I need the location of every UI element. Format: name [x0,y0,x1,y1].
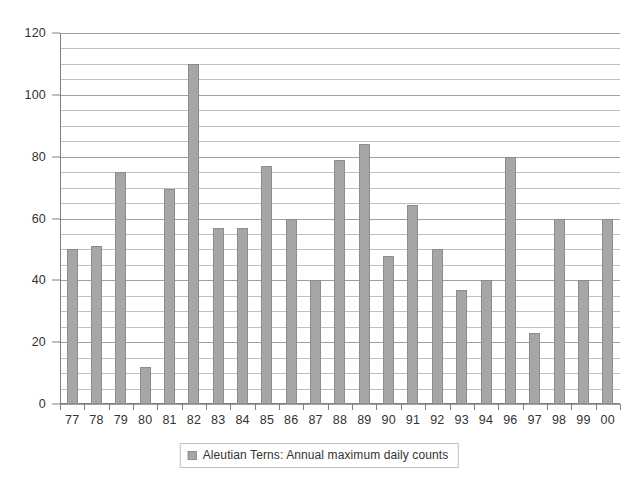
bar-slot [230,33,254,404]
bar-slot [255,33,279,404]
bar-series [60,33,620,404]
x-axis-tick-label: 91 [401,413,425,433]
bar-chart: 020406080100120 777879808182838485868788… [0,0,638,430]
x-axis-tick-label: 81 [157,413,181,433]
bar-slot [303,33,327,404]
y-axis-tick-label: 0 [39,397,46,411]
bar [407,205,418,404]
bar-slot [328,33,352,404]
x-axis-tick-label: 80 [133,413,157,433]
x-axis-tick [523,404,524,410]
x-axis-tick [474,404,475,410]
bar [456,290,467,404]
x-axis-tick-label: 87 [303,413,327,433]
bar-slot [133,33,157,404]
y-axis: 020406080100120 [0,33,60,404]
bar-slot [547,33,571,404]
y-axis-tick-label: 80 [32,150,46,164]
x-axis-tick [547,404,548,410]
bar [481,280,492,404]
bar [237,228,248,404]
bar-slot [182,33,206,404]
x-axis-tick-label: 00 [596,413,620,433]
x-axis-tick [328,404,329,410]
y-axis-tick-label: 100 [25,88,46,102]
bar-slot [498,33,522,404]
bar [115,172,126,404]
bar [505,157,516,404]
bar-slot [279,33,303,404]
legend-label: Aleutian Terns: Annual maximum daily cou… [203,448,449,462]
bar [164,189,175,404]
bar-slot [376,33,400,404]
y-axis-tick [52,218,60,219]
x-axis-tick [109,404,110,410]
x-axis-tick-label: 99 [571,413,595,433]
x-axis-tick-cell [60,404,84,411]
x-axis-tick-label: 83 [206,413,230,433]
y-axis-tick [52,94,60,95]
x-axis-tick [425,404,426,410]
bar [334,160,345,404]
x-axis-tick-cell [303,404,327,411]
bar [140,367,151,404]
x-axis-tick-cell [401,404,425,411]
x-axis-tick [206,404,207,410]
bar [602,219,613,405]
x-axis-tick-label: 88 [328,413,352,433]
x-axis-tick-label: 78 [84,413,108,433]
bar [432,249,443,404]
x-axis-tick-label: 90 [376,413,400,433]
x-axis-tick [84,404,85,410]
x-axis-ticks [60,404,620,411]
x-axis-tick-cell [450,404,474,411]
x-axis-tick [352,404,353,410]
x-axis-tick-label: 84 [230,413,254,433]
y-axis-tick-label: 60 [32,212,46,226]
bar-slot [596,33,620,404]
bar-slot [60,33,84,404]
x-axis-tick-cell [328,404,352,411]
x-axis-tick-label: 85 [255,413,279,433]
bar-slot [109,33,133,404]
x-axis-tick-cell [206,404,230,411]
bar [286,219,297,405]
x-axis-tick [596,404,597,410]
bar-slot [401,33,425,404]
x-axis-tick-cell [571,404,595,411]
x-axis-tick-cell [425,404,449,411]
bar-slot [474,33,498,404]
bar [261,166,272,404]
x-axis-tick [279,404,280,410]
y-axis-tick [52,280,60,281]
x-axis-tick [376,404,377,410]
x-axis-tick [498,404,499,410]
x-axis-tick-cell [523,404,547,411]
x-axis-tick-cell [84,404,108,411]
x-axis-tick [303,404,304,410]
x-axis-tick-cell [255,404,279,411]
x-axis-tick [450,404,451,410]
x-axis-tick-label: 98 [547,413,571,433]
x-axis-tick-cell [133,404,157,411]
x-axis-tick-label: 92 [425,413,449,433]
x-axis-tick [230,404,231,410]
x-axis-tick-cell [498,404,522,411]
y-axis-tick [52,156,60,157]
x-axis-tick-label: 94 [474,413,498,433]
x-axis-tick-label: 96 [498,413,522,433]
bar-slot [425,33,449,404]
x-axis-tick-cell [547,404,571,411]
x-axis-tick-cell [157,404,181,411]
x-axis-tick-cell [474,404,498,411]
bar-slot [206,33,230,404]
x-axis-tick-label: 93 [450,413,474,433]
x-axis-tick [401,404,402,410]
x-axis-tick-cell [352,404,376,411]
bar-slot [84,33,108,404]
y-axis-tick [52,404,60,405]
bar [359,144,370,404]
y-axis-tick-label: 20 [32,335,46,349]
x-axis-tick-cell [230,404,254,411]
bar [529,333,540,404]
